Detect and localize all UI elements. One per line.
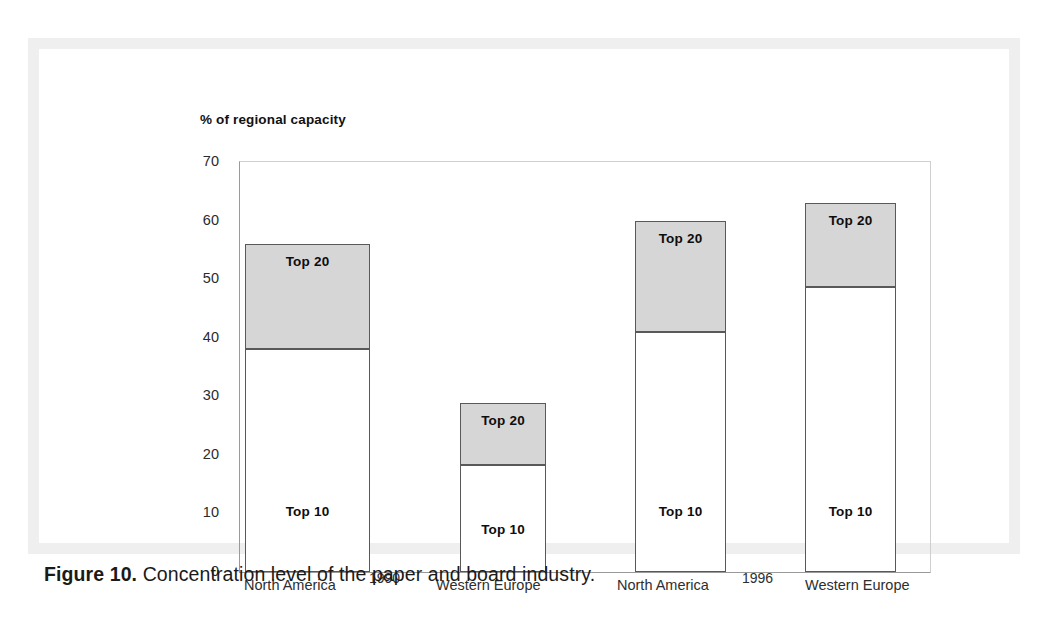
figure-caption-text: Concentration level of the paper and boa… [137,563,595,585]
bar-segment-top10-label: Top 10 [659,504,703,519]
bar-segment-top20-label: Top 20 [829,213,873,228]
bar-segment-top10[interactable]: Top 10 [635,332,726,572]
bar-north-america-1996[interactable]: Top 20 Top 10 [635,221,726,572]
bar-segment-top10[interactable]: Top 10 [245,349,370,572]
y-axis-title: % of regional capacity [200,112,346,127]
bar-western-europe-1990[interactable]: Top 20 Top 10 [460,403,546,572]
y-tick-70: 70 [39,153,229,169]
figure-frame: % of regional capacity 70 60 50 40 30 20… [28,38,1020,554]
figure-number: Figure 10. [44,563,137,585]
bar-north-america-1990[interactable]: Top 20 Top 10 [245,244,370,572]
plot-area: Top 20 Top 10 Top 20 Top 10 Top 20 [239,161,931,573]
bar-segment-top20-label: Top 20 [286,254,330,269]
bar-segment-top20-label: Top 20 [659,231,703,246]
bar-segment-top20-label: Top 20 [481,413,525,428]
bar-segment-top10-label: Top 10 [829,504,873,519]
bar-segment-top10-label: Top 10 [286,504,330,519]
bar-segment-top20[interactable]: Top 20 [805,203,896,287]
y-tick-50: 50 [39,270,229,286]
y-tick-20: 20 [39,446,229,462]
bar-segment-top10-label: Top 10 [481,522,525,537]
bar-segment-top20[interactable]: Top 20 [245,244,370,349]
y-tick-40: 40 [39,329,229,345]
bar-western-europe-1996[interactable]: Top 20 Top 10 [805,203,896,572]
figure-caption: Figure 10. Concentration level of the pa… [44,563,1024,586]
bar-segment-top20[interactable]: Top 20 [635,221,726,332]
bar-segment-top10[interactable]: Top 10 [460,465,546,572]
bar-segment-top20[interactable]: Top 20 [460,403,546,465]
y-tick-10: 10 [39,504,229,520]
y-tick-30: 30 [39,387,229,403]
bar-segment-top10[interactable]: Top 10 [805,287,896,572]
y-tick-60: 60 [39,212,229,228]
figure-page: % of regional capacity 70 60 50 40 30 20… [0,0,1056,637]
